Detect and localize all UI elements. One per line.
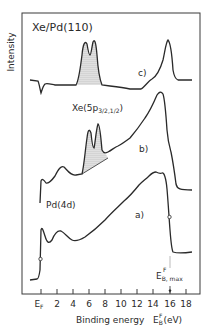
tick-label: 14	[147, 299, 159, 309]
curve-a-step	[28, 223, 41, 240]
tick-label: 12	[131, 299, 142, 309]
pd-4d-label: Pd(4d)	[46, 200, 76, 210]
curve-c	[30, 40, 192, 93]
tick-label: 8	[102, 299, 108, 309]
tick-label: 10	[115, 299, 127, 309]
x-axis-label: Binding energy EBF(eV)	[76, 312, 182, 326]
x-ticks	[41, 289, 186, 294]
y-axis-label: Intensity	[6, 32, 16, 72]
emax-arrow-icon	[169, 290, 172, 293]
x-tick-labels: EF 2 4 6 8 10 12 14 16 18	[34, 299, 192, 310]
tick-label: 2	[54, 299, 60, 309]
emax-annotation: EB, maxF	[156, 266, 183, 282]
curve-a	[30, 172, 192, 280]
tick-label: 4	[70, 299, 76, 309]
curve-a-label: a)	[135, 210, 144, 220]
xe-5p-label: Xe(5p3/2,1/2)	[72, 103, 123, 114]
tick-label: 16	[164, 299, 176, 309]
tick-label-ef: EF	[34, 299, 44, 310]
tick-label: 6	[86, 299, 92, 309]
tick-label: 18	[180, 299, 192, 309]
emax-marker	[168, 215, 171, 218]
curve-b-label: b)	[139, 144, 148, 154]
chart-svg: EF 2 4 6 8 10 12 14 16 18 Binding energy…	[0, 0, 212, 334]
curve-c-label: c)	[138, 68, 146, 78]
chart-title: Xe/Pd(110)	[32, 21, 93, 34]
ef-marker	[39, 257, 42, 260]
